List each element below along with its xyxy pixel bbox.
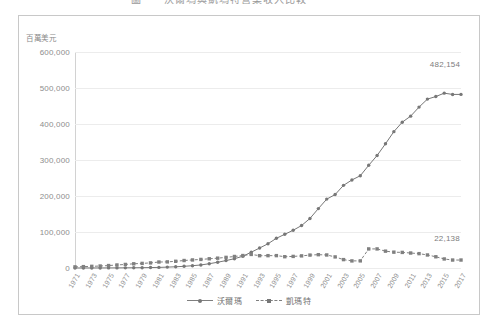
data-point-marker (149, 261, 152, 264)
data-point-marker (275, 254, 278, 257)
x-tick-label: 2011 (403, 272, 417, 289)
data-point-marker (375, 154, 378, 157)
x-tick-label: 1991 (235, 272, 249, 289)
data-point-marker (434, 255, 437, 258)
data-point-marker (443, 257, 446, 260)
data-point-marker (308, 217, 311, 220)
data-point-marker (426, 97, 429, 100)
data-point-marker (350, 259, 353, 262)
data-point-marker (258, 246, 261, 249)
y-tick-label: 100,000 (40, 228, 70, 237)
x-tick-label: 1983 (168, 272, 182, 289)
data-point-marker (300, 224, 303, 227)
data-point-marker (359, 174, 362, 177)
data-point-marker (317, 253, 320, 256)
legend-item-kmart[interactable]: 凱瑪特 (256, 295, 311, 306)
y-tick-label: 600,000 (40, 48, 70, 57)
x-tick-label: 1971 (67, 272, 81, 289)
x-tick-label: 1985 (184, 272, 198, 289)
data-point-marker (459, 93, 462, 96)
x-tick-label: 1975 (101, 272, 115, 289)
data-point-marker (182, 259, 185, 262)
data-point-marker (174, 260, 177, 263)
data-point-marker (132, 266, 135, 269)
x-tick-label: 1973 (84, 272, 98, 289)
legend-item-walmart[interactable]: 沃爾瑪 (187, 295, 242, 306)
data-point-marker (124, 266, 127, 269)
data-point-marker (417, 105, 420, 108)
data-point-marker (426, 253, 429, 256)
data-point-marker (384, 142, 387, 145)
data-point-marker (233, 255, 236, 258)
data-point-marker (216, 261, 219, 264)
x-tick-label: 2017 (453, 272, 467, 289)
chart-legend: 沃爾瑪 凱瑪特 (19, 295, 479, 306)
chart-page: 圖一 沃爾瑪與凱瑪特營業收入比較 百萬美元 0100,000200,000300… (0, 0, 498, 333)
data-point-marker (367, 164, 370, 167)
x-tick-label: 2007 (369, 272, 383, 289)
data-point-marker (140, 266, 143, 269)
walmart-end-label: 482,154 (430, 60, 460, 69)
data-point-marker (283, 233, 286, 236)
data-point-marker (191, 264, 194, 267)
data-point-marker (132, 262, 135, 265)
series-line-walmart (75, 93, 461, 268)
data-point-marker (250, 253, 253, 256)
data-point-marker (359, 259, 362, 262)
data-point-marker (98, 264, 101, 267)
data-point-marker (409, 114, 412, 117)
data-point-marker (166, 260, 169, 263)
data-point-marker (392, 250, 395, 253)
data-point-marker (258, 254, 261, 257)
x-tick-label: 2001 (319, 272, 333, 289)
data-point-marker (107, 264, 110, 267)
data-point-marker (451, 258, 454, 261)
kmart-end-label: 22,138 (434, 234, 460, 243)
data-point-marker (216, 256, 219, 259)
data-point-marker (140, 262, 143, 265)
data-point-marker (325, 253, 328, 256)
series-lines (75, 52, 461, 268)
legend-marker-round-icon (187, 297, 213, 305)
data-point-marker (115, 266, 118, 269)
x-tick-label: 1989 (218, 272, 232, 289)
data-point-marker (401, 120, 404, 123)
x-tick-label: 1993 (252, 272, 266, 289)
data-point-marker (199, 263, 202, 266)
data-point-marker (417, 252, 420, 255)
data-point-marker (325, 197, 328, 200)
plot-area: 0100,000200,000300,000400,000500,000600,… (75, 52, 461, 268)
x-tick-label: 2009 (386, 272, 400, 289)
data-point-marker (73, 265, 76, 268)
x-tick-label: 2005 (352, 272, 366, 289)
y-tick-label: 200,000 (40, 192, 70, 201)
x-tick-label: 1981 (151, 272, 165, 289)
y-tick-label: 300,000 (40, 156, 70, 165)
data-point-marker (224, 259, 227, 262)
data-point-marker (182, 265, 185, 268)
data-point-marker (291, 255, 294, 258)
x-tick-label: 1997 (285, 272, 299, 289)
data-point-marker (342, 258, 345, 261)
data-point-marker (350, 178, 353, 181)
data-point-marker (149, 266, 152, 269)
data-point-marker (308, 253, 311, 256)
data-point-marker (333, 193, 336, 196)
x-tick-label: 2003 (336, 272, 350, 289)
data-point-marker (82, 265, 85, 268)
data-point-marker (401, 251, 404, 254)
data-point-marker (157, 260, 160, 263)
legend-marker-square-icon (256, 297, 282, 305)
data-point-marker (451, 93, 454, 96)
data-point-marker (166, 265, 169, 268)
data-point-marker (300, 254, 303, 257)
chart-frame: 百萬美元 0100,000200,000300,000400,000500,00… (18, 15, 480, 315)
x-tick-label: 2015 (436, 272, 450, 289)
x-tick-label: 2013 (419, 272, 433, 289)
x-tick-label: 1977 (117, 272, 131, 289)
data-point-marker (367, 247, 370, 250)
cropped-title-strip: 圖一 沃爾瑪與凱瑪特營業收入比較 (0, 0, 498, 8)
data-point-marker (224, 256, 227, 259)
data-point-marker (191, 258, 194, 261)
legend-label-kmart: 凱瑪特 (286, 295, 311, 306)
